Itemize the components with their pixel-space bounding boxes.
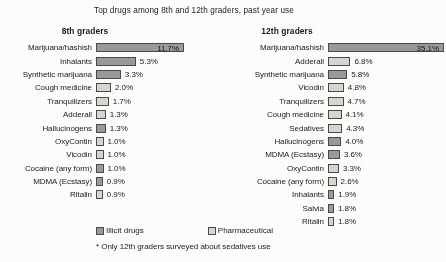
bar-value-label: 4.1% xyxy=(346,110,364,119)
bar-rows-12th: Marijuana/hashish35.1%Adderall6.8%Synthe… xyxy=(224,41,446,228)
chart-legend: Illicit drugs Pharmaceutical xyxy=(96,226,273,235)
bar-value-label: 35.1% xyxy=(417,43,439,52)
bar-pharma xyxy=(328,217,334,226)
bar-area: 3.3% xyxy=(328,162,446,175)
bar-pharma xyxy=(96,110,106,119)
bar-row: Hallucinogens1.3% xyxy=(0,121,214,134)
bar-row-label: Synthetic marijuana xyxy=(0,70,96,79)
bar-row-label: Cough medicine xyxy=(0,83,96,92)
bar-pharma xyxy=(328,57,350,66)
panel-header-8th: 8th graders xyxy=(0,26,214,36)
bar-row-label: Sedatives xyxy=(224,124,328,133)
bar-row-label: OxyContin xyxy=(0,137,96,146)
bar-pharma xyxy=(328,124,342,133)
panel-8th-graders: 8th graders Marijuana/hashish11.7%Inhala… xyxy=(0,26,214,202)
legend-label-pharmaceutical: Pharmaceutical xyxy=(218,226,273,235)
bar-value-label: 4.7% xyxy=(348,97,366,106)
bar-row: Vicodin4.8% xyxy=(224,81,446,94)
bar-area: 1.9% xyxy=(328,188,446,201)
bar-value-label: 5.8% xyxy=(351,70,369,79)
bar-area: 0.9% xyxy=(96,188,214,201)
bar-row: OxyContin1.0% xyxy=(0,135,214,148)
bar-row: Tranquilizers4.7% xyxy=(224,95,446,108)
bar-row: Cocaine (any form)2.6% xyxy=(224,175,446,188)
bar-row: Cough medicine2.0% xyxy=(0,81,214,94)
bar-row: OxyContin3.3% xyxy=(224,162,446,175)
bar-value-label: 1.3% xyxy=(110,110,128,119)
bar-pharma xyxy=(96,190,103,199)
bar-row-label: Salvia xyxy=(224,204,328,213)
bar-value-label: 4.0% xyxy=(345,137,363,146)
bar-pharma xyxy=(328,83,344,92)
bar-illicit: 35.1% xyxy=(328,43,444,52)
bar-illicit xyxy=(328,204,334,213)
bar-illicit xyxy=(328,70,347,79)
bar-pharma xyxy=(96,137,104,146)
bar-illicit: 11.7% xyxy=(96,43,184,52)
bar-value-label: 1.9% xyxy=(338,190,356,199)
bar-area: 4.8% xyxy=(328,81,446,94)
bar-row: Inhalants1.9% xyxy=(224,188,446,201)
bar-pharma xyxy=(328,177,337,186)
bar-area: 1.3% xyxy=(96,121,214,134)
bar-illicit xyxy=(96,177,103,186)
bar-pharma xyxy=(96,150,104,159)
chart-title: Top drugs among 8th and 12th graders, pa… xyxy=(94,6,294,15)
bar-row-label: Tranquilizers xyxy=(224,97,328,106)
bar-illicit xyxy=(96,124,106,133)
bar-row-label: MDMA (Ecstasy) xyxy=(0,177,96,186)
bar-pharma xyxy=(328,164,339,173)
bar-row-label: Marijuana/hashish xyxy=(224,43,328,52)
bar-area: 3.3% xyxy=(96,68,214,81)
bar-value-label: 1.0% xyxy=(108,137,126,146)
bar-row: Marijuana/hashish11.7% xyxy=(0,41,214,54)
bar-area: 4.3% xyxy=(328,121,446,134)
bar-value-label: 0.9% xyxy=(107,190,125,199)
bar-row: Tranquilizers1.7% xyxy=(0,95,214,108)
bar-pharma xyxy=(328,110,342,119)
bar-area: 35.1% xyxy=(328,41,446,54)
bar-area: 4.1% xyxy=(328,108,446,121)
bar-area: 1.8% xyxy=(328,215,446,228)
bar-row: Synthetic marijuana3.3% xyxy=(0,68,214,81)
bar-row: MDMA (Ecstasy)0.9% xyxy=(0,175,214,188)
bar-pharma xyxy=(96,97,109,106)
bar-row-label: OxyContin xyxy=(224,164,328,173)
bar-row-label: Vicodin xyxy=(0,150,96,159)
bar-value-label: 6.8% xyxy=(354,57,372,66)
bar-area: 1.0% xyxy=(96,135,214,148)
bar-row: Sedatives4.3% xyxy=(224,121,446,134)
bar-area: 1.8% xyxy=(328,202,446,215)
bar-value-label: 1.8% xyxy=(338,217,356,226)
bar-value-label: 3.6% xyxy=(344,150,362,159)
panel-header-12th: 12th graders xyxy=(224,26,446,36)
bar-area: 5.8% xyxy=(328,68,446,81)
bar-value-label: 1.3% xyxy=(110,124,128,133)
bar-row: Adderall1.3% xyxy=(0,108,214,121)
bar-area: 6.8% xyxy=(328,54,446,67)
bar-row: Cocaine (any form)1.0% xyxy=(0,162,214,175)
bar-area: 2.6% xyxy=(328,175,446,188)
bar-value-label: 1.0% xyxy=(108,164,126,173)
bar-row-label: Cough medicine xyxy=(224,110,328,119)
bar-row-label: Ritalin xyxy=(224,217,328,226)
bar-area: 4.0% xyxy=(328,135,446,148)
bar-row-label: Synthetic marijuana xyxy=(224,70,328,79)
bar-area: 1.0% xyxy=(96,162,214,175)
bar-rows-8th: Marijuana/hashish11.7%Inhalants5.3%Synth… xyxy=(0,41,214,202)
bar-value-label: 0.9% xyxy=(107,177,125,186)
bar-illicit xyxy=(96,70,121,79)
bar-illicit xyxy=(328,190,334,199)
bar-value-label: 2.6% xyxy=(341,177,359,186)
bar-area: 4.7% xyxy=(328,95,446,108)
legend-swatch-pharmaceutical-icon xyxy=(208,227,216,235)
bar-row-label: Vicodin xyxy=(224,83,328,92)
bar-value-label: 4.3% xyxy=(346,124,364,133)
bar-area: 3.6% xyxy=(328,148,446,161)
bar-row: Vicodin1.0% xyxy=(0,148,214,161)
bar-area: 1.3% xyxy=(96,108,214,121)
bar-area: 1.0% xyxy=(96,148,214,161)
bar-row-label: Ritalin xyxy=(0,190,96,199)
bar-row-label: Cocaine (any form) xyxy=(0,164,96,173)
bar-row: Salvia1.8% xyxy=(224,202,446,215)
